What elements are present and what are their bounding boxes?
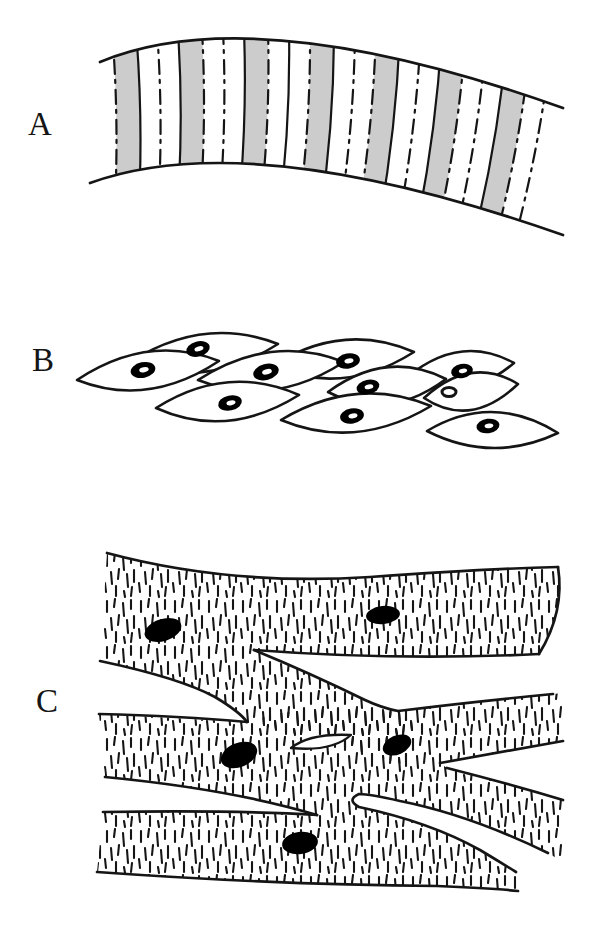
panel-b-smooth-muscle-cells: B	[32, 333, 558, 448]
stripe-divider	[234, 30, 245, 250]
nucleus-pale	[442, 387, 456, 396]
gray-band	[234, 30, 268, 250]
gray-band	[352, 30, 400, 250]
stripe-divider	[155, 30, 161, 250]
stripe-divider	[215, 30, 224, 250]
muscle-tissue-figure: A	[0, 0, 606, 936]
figure-canvas: A	[0, 0, 606, 936]
gray-band	[174, 30, 204, 250]
panel-a-label: A	[28, 106, 52, 142]
gray-band	[293, 30, 334, 250]
panel-b-label: B	[32, 342, 54, 378]
gray-band	[471, 30, 532, 250]
stripe-divider	[452, 30, 487, 250]
band-stripes	[112, 30, 553, 250]
panel-c-cardiac-muscle-fibers: C	[36, 553, 563, 891]
fiber-lower-network	[97, 693, 563, 891]
stripe-divider	[274, 30, 289, 250]
panel-c-label: C	[36, 683, 58, 719]
panel-a-striated-muscle-fiber: A	[28, 30, 563, 250]
stripe-divider	[334, 30, 355, 250]
stripe-divider	[174, 30, 181, 250]
